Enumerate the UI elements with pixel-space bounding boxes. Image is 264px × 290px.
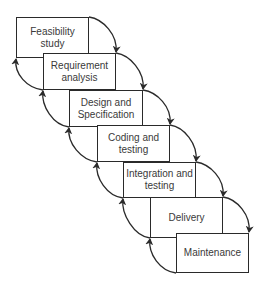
phase-requirement-analysis: Requirement analysis bbox=[43, 53, 116, 90]
phase-integration-and-testing: Integration and testing bbox=[123, 162, 196, 198]
phase-label: Requirement analysis bbox=[51, 60, 108, 84]
phase-label: Maintenance bbox=[184, 247, 241, 259]
phase-maintenance: Maintenance bbox=[176, 233, 249, 273]
forward-arrow bbox=[89, 17, 116, 52]
forward-arrow bbox=[143, 90, 170, 124]
phase-feasibility-study: Feasibility study bbox=[16, 17, 89, 58]
phase-delivery: Delivery bbox=[150, 197, 223, 238]
forward-arrow bbox=[223, 197, 249, 232]
forward-arrow bbox=[196, 162, 223, 196]
phase-label: Delivery bbox=[168, 212, 204, 224]
feedback-arrow bbox=[69, 128, 97, 162]
waterfall-diagram: Feasibility study Requirement analysis D… bbox=[0, 0, 264, 290]
feedback-arrow bbox=[123, 199, 150, 238]
feedback-arrow bbox=[97, 163, 123, 198]
forward-arrow bbox=[116, 53, 143, 89]
phase-label: Integration and testing bbox=[126, 168, 193, 192]
phase-label: Coding and testing bbox=[108, 132, 159, 156]
feedback-arrow bbox=[43, 91, 69, 127]
forward-arrow bbox=[170, 125, 196, 161]
phase-label: Design and Specification bbox=[78, 97, 135, 121]
phase-design-and-specification: Design and Specification bbox=[69, 90, 143, 127]
phase-coding-and-testing: Coding and testing bbox=[97, 125, 170, 162]
phase-label: Feasibility study bbox=[30, 26, 74, 50]
feedback-arrow bbox=[150, 239, 176, 273]
feedback-arrow bbox=[16, 59, 43, 90]
